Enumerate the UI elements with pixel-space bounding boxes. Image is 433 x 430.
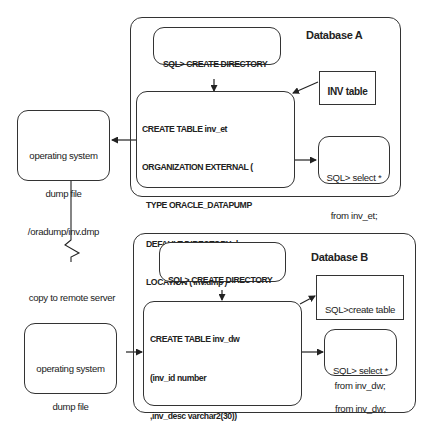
transfer-line: copy to remote server	[18, 292, 126, 305]
code-line: CREATE TABLE inv_dw	[150, 333, 286, 346]
code-line: SQL> CREATE DIRECTORY	[168, 274, 273, 287]
code-line: SQL> select *	[325, 365, 396, 378]
code-line: SQL> select *	[319, 172, 389, 185]
code-line: CREATE TABLE inv_et	[142, 123, 279, 136]
target-dump-file-box[interactable]: operating system dump file /oradump/inv.…	[24, 323, 117, 394]
inv-table-label: INV table	[327, 86, 367, 97]
code-line: ORGANIZATION EXTERNAL (	[142, 161, 279, 174]
dump-line: operating system	[25, 363, 116, 376]
create-directory-box-b[interactable]: SQL> CREATE DIRECTORY dp AS '/oradump';	[159, 242, 286, 282]
create-table-box-a[interactable]: CREATE TABLE inv_et ORGANIZATION EXTERNA…	[136, 91, 295, 188]
inv-table-box-a[interactable]: INV table	[319, 71, 376, 105]
dump-line: /oradump/inv.dmp	[18, 226, 109, 239]
select-query-box-b[interactable]: SQL> select * from inv_dw;	[324, 329, 397, 376]
code-line: from inv_et;	[319, 210, 389, 223]
create-table-inv-box-b[interactable]: SQL>create table INV as select * from in…	[316, 275, 404, 320]
dump-line: dump file	[25, 401, 116, 414]
select-query-box-a[interactable]: SQL> select * from inv_et;	[318, 136, 390, 184]
database-b-title: Database B	[311, 251, 368, 263]
code-line: SQL>create table	[317, 304, 403, 317]
create-directory-box-a[interactable]: SQL> CREATE DIRECTORY dp AS '/oradump';	[153, 27, 281, 65]
dump-line: operating system	[18, 150, 109, 163]
code-line: (inv_id number	[150, 372, 286, 385]
source-dump-file-box[interactable]: operating system dump file /oradump/inv.…	[17, 110, 110, 181]
dump-line: dump file	[18, 188, 109, 201]
code-line: SQL> CREATE DIRECTORY	[163, 58, 268, 71]
create-table-box-b[interactable]: CREATE TABLE inv_dw (inv_id number ,inv_…	[143, 301, 302, 406]
code-line: TYPE ORACLE_DATAPUMP	[142, 199, 279, 212]
code-line: ,inv_desc varchar2(30))	[150, 410, 286, 423]
database-a-title: Database A	[306, 29, 363, 41]
code-line: from inv_dw;	[325, 403, 396, 416]
